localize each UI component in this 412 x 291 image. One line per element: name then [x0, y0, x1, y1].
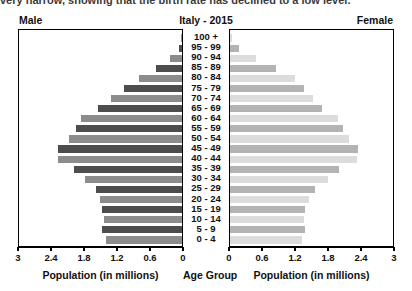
axis-tick [50, 247, 51, 251]
axis-tick-label: 1.8 [77, 252, 90, 263]
bar-female [230, 196, 309, 203]
age-group-axis-title: Age Group [183, 268, 229, 282]
female-axis-line [229, 247, 394, 248]
bar-female [230, 176, 328, 183]
chart-header: Male Italy - 2015 Female [0, 13, 412, 28]
axis-tick-label: 2.4 [44, 252, 57, 263]
bar-male [100, 196, 182, 203]
bar-male [58, 145, 182, 152]
bar-male [170, 55, 182, 62]
bar-male [96, 186, 182, 193]
age-group-label: 5 - 9 [183, 224, 229, 234]
bar-male [156, 65, 182, 72]
bar-female [230, 95, 313, 102]
bar-male [181, 34, 182, 41]
bar-female [230, 236, 302, 243]
age-group-label: 90 - 94 [183, 52, 229, 62]
bar-female [230, 156, 357, 163]
age-group-label: 20 - 24 [183, 194, 229, 204]
bar-female [230, 145, 358, 152]
age-group-label: 30 - 34 [183, 173, 229, 183]
chart-title: Italy - 2015 [0, 13, 412, 28]
x-axes: 32.41.81.20.6000.61.21.82.43 [0, 247, 412, 263]
chart-footer: Population (in millions) Age Group Popul… [0, 268, 412, 284]
axis-tick-label: 0 [180, 252, 185, 263]
axis-tick [116, 247, 117, 251]
axis-tick [360, 247, 361, 251]
age-group-label: 95 - 99 [183, 42, 229, 52]
bar-female [230, 166, 339, 173]
age-group-label: 70 - 74 [183, 93, 229, 103]
bar-male [102, 206, 182, 213]
bar-female [230, 55, 256, 62]
bar-male [102, 226, 182, 233]
bar-male [139, 75, 182, 82]
female-legend-label: Female [357, 13, 393, 28]
bar-male [179, 45, 182, 52]
axis-tick [149, 247, 150, 251]
bar-female [230, 105, 322, 112]
axis-tick-label: 1.2 [110, 252, 123, 263]
age-group-label: 65 - 69 [183, 103, 229, 113]
bar-male [81, 115, 182, 122]
axis-tick [294, 247, 295, 251]
axis-tick-label: 1.2 [288, 252, 301, 263]
age-group-label: 40 - 44 [183, 153, 229, 163]
page-caption-text: very narrow, showing that the birth rate… [0, 0, 412, 6]
age-group-label: 25 - 29 [183, 183, 229, 193]
age-group-label: 55 - 59 [183, 123, 229, 133]
bar-male [98, 105, 182, 112]
bar-male [85, 176, 182, 183]
bar-female [230, 45, 239, 52]
axis-tick-label: 0 [226, 252, 231, 263]
female-axis-title: Population (in millions) [229, 268, 394, 282]
age-group-label: 60 - 64 [183, 113, 229, 123]
bar-female [230, 75, 295, 82]
bar-female [230, 65, 276, 72]
age-group-label: 35 - 39 [183, 163, 229, 173]
male-axis-title: Population (in millions) [18, 268, 183, 282]
age-group-label: 50 - 54 [183, 133, 229, 143]
age-group-label: 85 - 89 [183, 62, 229, 72]
age-group-label: 75 - 79 [183, 83, 229, 93]
axis-tick [83, 247, 84, 251]
axis-tick-label: 0.6 [143, 252, 156, 263]
bar-male [111, 95, 182, 102]
bar-male [58, 156, 182, 163]
axis-tick-label: 3 [391, 252, 396, 263]
population-pyramid-plot: 100 +95 - 9990 - 9485 - 8980 - 8475 - 79… [0, 29, 412, 247]
age-group-label: 45 - 49 [183, 143, 229, 153]
bar-female [230, 216, 304, 223]
axis-tick-label: 3 [15, 252, 20, 263]
age-group-label: 0 - 4 [183, 234, 229, 244]
bar-male [69, 135, 182, 142]
bar-female [230, 135, 349, 142]
bar-female [230, 206, 305, 213]
age-group-label: 100 + [183, 32, 229, 42]
axis-tick [228, 247, 229, 251]
bar-female [230, 186, 315, 193]
axis-tick [182, 247, 183, 251]
male-axis-line [18, 247, 183, 248]
axis-tick [327, 247, 328, 251]
axis-tick [393, 247, 394, 251]
bar-female [230, 226, 305, 233]
bar-male [104, 216, 182, 223]
female-bars-panel [229, 29, 394, 247]
bar-female [230, 115, 338, 122]
bar-male [76, 125, 182, 132]
bar-female [230, 85, 304, 92]
axis-tick [17, 247, 18, 251]
age-group-label-column: 100 +95 - 9990 - 9485 - 8980 - 8475 - 79… [183, 29, 229, 247]
bar-male [124, 85, 182, 92]
age-group-label: 10 - 14 [183, 214, 229, 224]
bar-male [74, 166, 182, 173]
bar-female [230, 125, 343, 132]
page-caption-strip: very narrow, showing that the birth rate… [0, 0, 412, 6]
bar-male [106, 236, 182, 243]
bar-female [230, 34, 232, 41]
age-group-label: 15 - 19 [183, 204, 229, 214]
axis-tick-label: 0.6 [255, 252, 268, 263]
axis-tick [261, 247, 262, 251]
male-bars-panel [18, 29, 183, 247]
